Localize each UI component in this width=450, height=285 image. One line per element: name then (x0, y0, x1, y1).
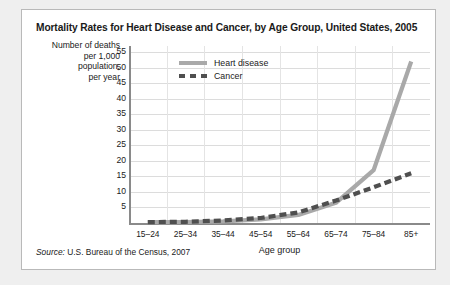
y-axis-tick-label: 55 (100, 46, 126, 56)
legend-swatch-cancer (179, 69, 207, 82)
y-axis-tick-label: 35 (100, 108, 126, 118)
y-axis-tick-label: 25 (100, 139, 126, 149)
legend-label-heart-disease: Heart disease (214, 58, 268, 68)
plot-area: 510152025303540455055 15–2425–3435–4445–… (129, 46, 430, 225)
x-axis-tick-label: 85+ (388, 229, 434, 239)
legend: Heart disease Cancer (179, 56, 268, 82)
y-axis-tick-label: 20 (100, 155, 126, 165)
source-text: U.S. Bureau of the Census, 2007 (65, 247, 190, 257)
series-lines (129, 46, 430, 225)
cancer-line (148, 173, 411, 222)
source-prefix: Source: (36, 247, 65, 257)
y-axis-tick-label: 5 (100, 201, 126, 211)
heart-disease-line (148, 62, 411, 223)
y-axis-tick-label: 10 (100, 186, 126, 196)
y-axis-tick-label: 45 (100, 77, 126, 87)
chart-card: Mortality Rates for Heart Disease and Ca… (21, 9, 436, 270)
page-title: Mortality Rates for Heart Disease and Ca… (36, 22, 426, 33)
legend-item-heart-disease: Heart disease (179, 56, 268, 69)
legend-swatch-heart-disease (179, 56, 207, 69)
y-axis-tick-label: 40 (100, 93, 126, 103)
source-note: Source: U.S. Bureau of the Census, 2007 (36, 247, 190, 257)
y-axis-tick-label: 30 (100, 124, 126, 134)
y-axis-tick-label: 15 (100, 170, 126, 180)
legend-label-cancer: Cancer (214, 71, 242, 81)
y-axis-tick-label: 50 (100, 62, 126, 72)
legend-item-cancer: Cancer (179, 69, 268, 82)
